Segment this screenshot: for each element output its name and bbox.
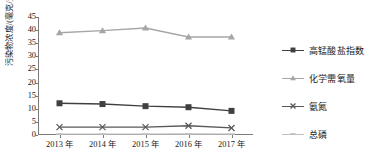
y-tick-mark — [35, 43, 38, 44]
y-tick-mark — [35, 83, 38, 84]
legend-marker-cross — [282, 101, 304, 111]
plot-area — [38, 17, 253, 135]
y-axis-tick-labels: 051015202530354045 — [14, 0, 36, 167]
x-tick-label: 2017 年 — [218, 137, 245, 149]
legend-item-cross[interactable]: 氨氮 — [282, 94, 370, 118]
legend: 高锰酸盐指数化学需氧量氨氮总磷 — [282, 38, 370, 150]
x-axis-tick-labels: 2013 年2014 年2015 年2016 年2017 年 — [38, 137, 253, 157]
legend-label: 氨氮 — [309, 100, 327, 113]
legend-item-dash[interactable]: 总磷 — [282, 122, 370, 146]
legend-label: 总磷 — [309, 128, 327, 141]
data-point-marker-square — [143, 103, 149, 109]
legend-item-square[interactable]: 高锰酸盐指数 — [282, 38, 370, 62]
legend-swatch-icon — [282, 45, 304, 55]
legend-swatch-icon — [282, 101, 304, 111]
legend-marker-dash — [282, 129, 304, 139]
legend-item-triangle[interactable]: 化学需氧量 — [282, 66, 370, 90]
data-point-marker-square — [100, 101, 106, 107]
y-tick-mark — [35, 30, 38, 31]
data-point-marker-cross — [291, 104, 296, 109]
legend-label: 化学需氧量 — [309, 72, 355, 85]
data-point-marker-square — [57, 100, 63, 106]
data-point-marker-square — [229, 108, 235, 114]
legend-marker-triangle — [282, 73, 304, 83]
legend-marker-square — [282, 45, 304, 55]
y-tick-mark — [35, 17, 38, 18]
series-layer — [38, 17, 253, 135]
y-tick-mark — [35, 122, 38, 123]
x-tick-label: 2013 年 — [46, 137, 73, 149]
y-tick-mark — [35, 69, 38, 70]
y-tick-mark — [35, 109, 38, 110]
data-point-marker-triangle — [290, 75, 296, 80]
legend-swatch-icon — [282, 129, 304, 139]
y-axis-title: 污染物浓度/(毫克/升) — [2, 0, 14, 88]
line-chart: 污染物浓度/(毫克/升) 051015202530354045 2013 年20… — [0, 0, 370, 167]
y-tick-mark — [35, 96, 38, 97]
data-point-marker-square — [186, 104, 192, 110]
y-tick-mark — [35, 56, 38, 57]
data-point-marker-square — [291, 48, 296, 53]
x-tick-label: 2014 年 — [89, 137, 116, 149]
legend-label: 高锰酸盐指数 — [309, 44, 364, 57]
x-tick-label: 2015 年 — [132, 137, 159, 149]
x-tick-label: 2016 年 — [175, 137, 202, 149]
y-tick-mark — [35, 135, 38, 136]
legend-swatch-icon — [282, 73, 304, 83]
